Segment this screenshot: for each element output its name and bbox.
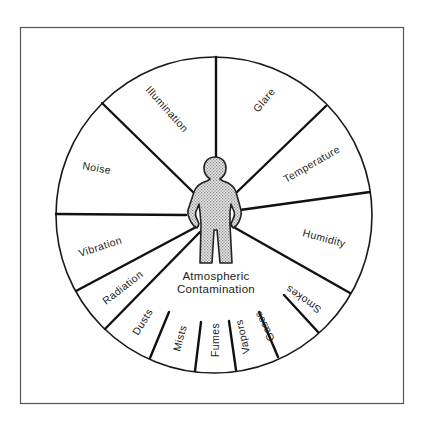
center-label-line2: Contamination bbox=[177, 283, 255, 295]
divider-vibration-noise bbox=[56, 214, 186, 215]
center-label-line1: Atmospheric bbox=[182, 270, 249, 282]
subsegment-label-fumes: Fumes bbox=[209, 323, 221, 357]
environment-factors-wheel: Atmospheric Contamination Illumination G… bbox=[0, 0, 423, 424]
